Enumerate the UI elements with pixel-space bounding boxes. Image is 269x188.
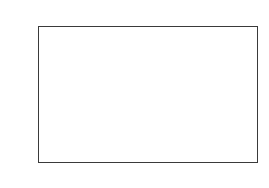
figure-panel bbox=[0, 0, 269, 188]
plot-overlay bbox=[0, 0, 269, 188]
